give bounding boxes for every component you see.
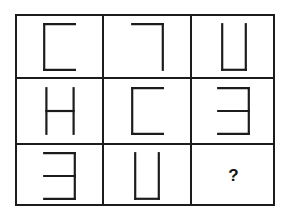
bracket-open-top-icon [134, 152, 160, 200]
matrix-cell-r3c1[interactable] [17, 145, 104, 206]
matrix-puzzle-image: ? [0, 0, 289, 219]
bracket-open-right-icon [43, 23, 76, 71]
corner-top-right-icon [131, 23, 164, 71]
mirrored-e-icon [217, 87, 250, 135]
matrix-cell-r2c1[interactable] [17, 79, 104, 145]
matrix-cell-r1c2[interactable] [104, 16, 192, 79]
bracket-open-right-icon [131, 87, 164, 135]
matrix-cell-r1c1[interactable] [17, 16, 104, 79]
question-mark-label: ? [228, 167, 238, 184]
matrix-cell-r1c3[interactable] [192, 16, 275, 79]
matrix-cell-r2c3[interactable] [192, 79, 275, 145]
matrix-grid: ? [15, 14, 275, 206]
h-shape-icon [45, 87, 75, 135]
matrix-cell-r2c2[interactable] [104, 79, 192, 145]
mirrored-e-icon [43, 152, 76, 200]
bracket-open-top-icon [221, 23, 247, 71]
matrix-cell-r3c3-missing[interactable]: ? [192, 145, 275, 206]
matrix-cell-r3c2[interactable] [104, 145, 192, 206]
